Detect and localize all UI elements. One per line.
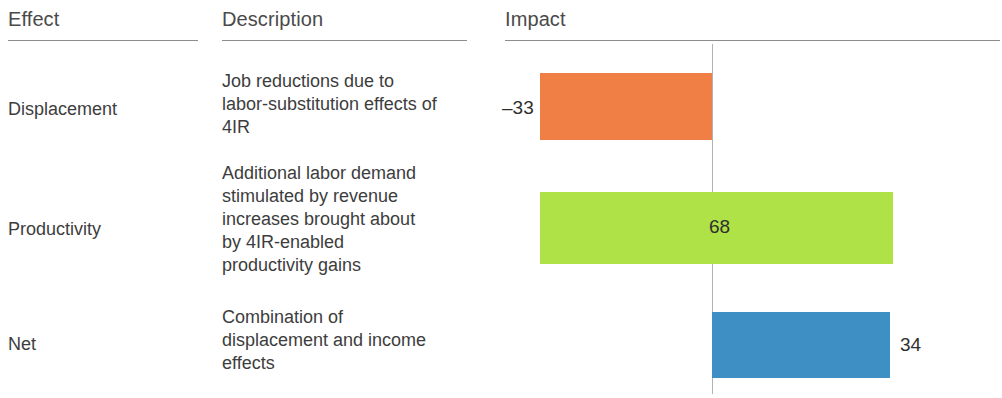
- bar-displacement: [540, 73, 712, 140]
- impact-bar-chart: –33 68 34: [0, 0, 1002, 398]
- bar-value-label-displacement: –33: [502, 97, 534, 119]
- bar-value-label-net: 34: [900, 334, 921, 356]
- bar-net: [712, 312, 890, 378]
- bar-value-label-productivity: 68: [709, 216, 730, 238]
- impact-table-chart-figure: Effect Description Impact Displacement J…: [0, 0, 1002, 398]
